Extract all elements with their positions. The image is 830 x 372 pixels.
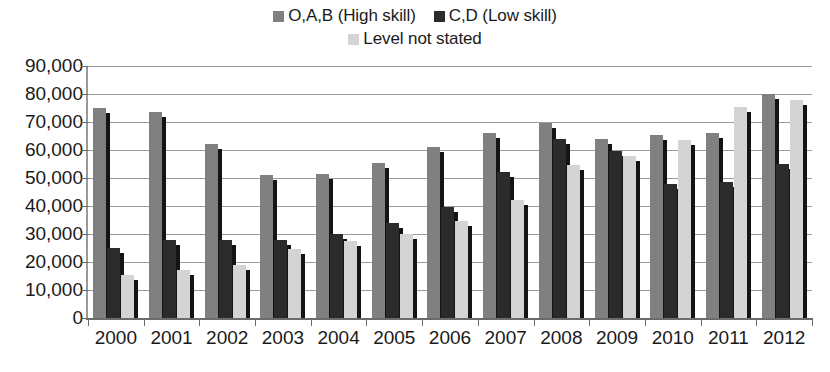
y-axis-tick-mark — [81, 122, 88, 123]
bar[interactable] — [441, 207, 454, 318]
x-axis-tick-label: 2009 — [596, 327, 638, 349]
bar-shadow — [468, 226, 472, 318]
legend-swatch-icon — [348, 34, 359, 45]
y-axis-tick-mark — [81, 290, 88, 291]
legend-item-label: Level not stated — [363, 29, 481, 48]
bar[interactable] — [274, 240, 287, 318]
bar-body — [567, 165, 580, 318]
bar[interactable] — [177, 270, 190, 318]
y-axis-tick-mark — [81, 318, 88, 319]
bar[interactable] — [623, 156, 636, 318]
x-axis-tick-label: 2008 — [540, 327, 582, 349]
x-axis-tick-label: 2007 — [485, 327, 527, 349]
bar[interactable] — [344, 241, 357, 318]
bar[interactable] — [511, 200, 524, 318]
legend-item-label: C,D (Low skill) — [449, 6, 557, 25]
bar[interactable] — [121, 275, 134, 318]
bar[interactable] — [609, 151, 622, 318]
bar-body — [386, 223, 399, 318]
bar-body — [219, 240, 232, 318]
bar-body — [427, 147, 440, 318]
bar[interactable] — [400, 234, 413, 318]
bar[interactable] — [93, 108, 106, 318]
x-axis-tick-label: 2002 — [206, 327, 248, 349]
y-axis-tick-label: 80,000 — [25, 83, 83, 105]
y-axis-tick-label: 20,000 — [25, 251, 83, 273]
bar[interactable] — [149, 112, 162, 318]
legend-item[interactable]: C,D (Low skill) — [434, 5, 557, 27]
bar[interactable] — [386, 223, 399, 318]
bar-body — [260, 175, 273, 318]
bar[interactable] — [664, 184, 677, 318]
bar-group — [478, 66, 534, 318]
bar[interactable] — [372, 163, 385, 318]
y-axis-tick-mark — [81, 262, 88, 263]
bar[interactable] — [720, 182, 733, 318]
bar-group — [756, 66, 812, 318]
bar[interactable] — [776, 164, 789, 318]
bar[interactable] — [288, 249, 301, 318]
x-axis-tick-label: 2001 — [150, 327, 192, 349]
bar[interactable] — [483, 133, 496, 318]
x-axis-tick-label: 2003 — [262, 327, 304, 349]
bar[interactable] — [790, 100, 803, 318]
bar[interactable] — [427, 147, 440, 318]
y-axis-tick-mark — [81, 234, 88, 235]
bar[interactable] — [734, 107, 747, 318]
legend-item-label: O,A,B (High skill) — [288, 6, 416, 25]
bar-body — [776, 164, 789, 318]
x-axis-labels: 2000200120022003200420052006200720082009… — [88, 327, 812, 357]
bar-body — [664, 184, 677, 318]
bar[interactable] — [762, 94, 775, 318]
bar-body — [372, 163, 385, 318]
x-axis-tick-label: 2006 — [429, 327, 471, 349]
x-axis-tick-mark — [812, 318, 813, 326]
bar-group — [255, 66, 311, 318]
bar[interactable] — [316, 174, 329, 318]
x-axis-tick-mark — [534, 318, 535, 326]
legend-swatch-icon — [273, 11, 284, 22]
bar[interactable] — [455, 221, 468, 318]
y-axis-tick-mark — [81, 150, 88, 151]
bar[interactable] — [595, 139, 608, 318]
bar[interactable] — [205, 144, 218, 318]
bar-group — [589, 66, 645, 318]
bar[interactable] — [706, 133, 719, 318]
bar[interactable] — [219, 240, 232, 318]
bar[interactable] — [553, 139, 566, 318]
bar-body — [93, 108, 106, 318]
x-axis-tick-mark — [589, 318, 590, 326]
bar[interactable] — [539, 123, 552, 318]
bar[interactable] — [260, 175, 273, 318]
bar-body — [288, 249, 301, 318]
bar[interactable] — [233, 265, 246, 318]
bar-body — [455, 221, 468, 318]
bar[interactable] — [567, 165, 580, 318]
legend-item[interactable]: Level not stated — [348, 28, 481, 50]
bar-shadow — [190, 275, 194, 318]
bar[interactable] — [650, 135, 663, 318]
x-axis-tick-mark — [422, 318, 423, 326]
x-axis-tick-label: 2011 — [708, 327, 749, 349]
bar[interactable] — [330, 234, 343, 318]
x-axis-tick-mark — [199, 318, 200, 326]
bar[interactable] — [107, 248, 120, 318]
x-axis-tick-label: 2012 — [763, 327, 805, 349]
y-axis-tick-label: 60,000 — [25, 139, 83, 161]
bar[interactable] — [163, 240, 176, 318]
legend-item[interactable]: O,A,B (High skill) — [273, 5, 416, 27]
bar-body — [678, 140, 691, 318]
y-axis-tick-mark — [81, 206, 88, 207]
x-axis-tick-mark — [701, 318, 702, 326]
bar[interactable] — [678, 140, 691, 318]
bar-body — [720, 182, 733, 318]
bar[interactable] — [497, 172, 510, 318]
bar-group — [199, 66, 255, 318]
legend-row: O,A,B (High skill)C,D (Low skill) — [0, 4, 830, 27]
y-axis-tick-label: 40,000 — [25, 195, 83, 217]
bar-group — [701, 66, 757, 318]
bar-shadow — [636, 161, 640, 318]
bar-body — [497, 172, 510, 318]
bar-group — [311, 66, 367, 318]
bar-body — [623, 156, 636, 318]
